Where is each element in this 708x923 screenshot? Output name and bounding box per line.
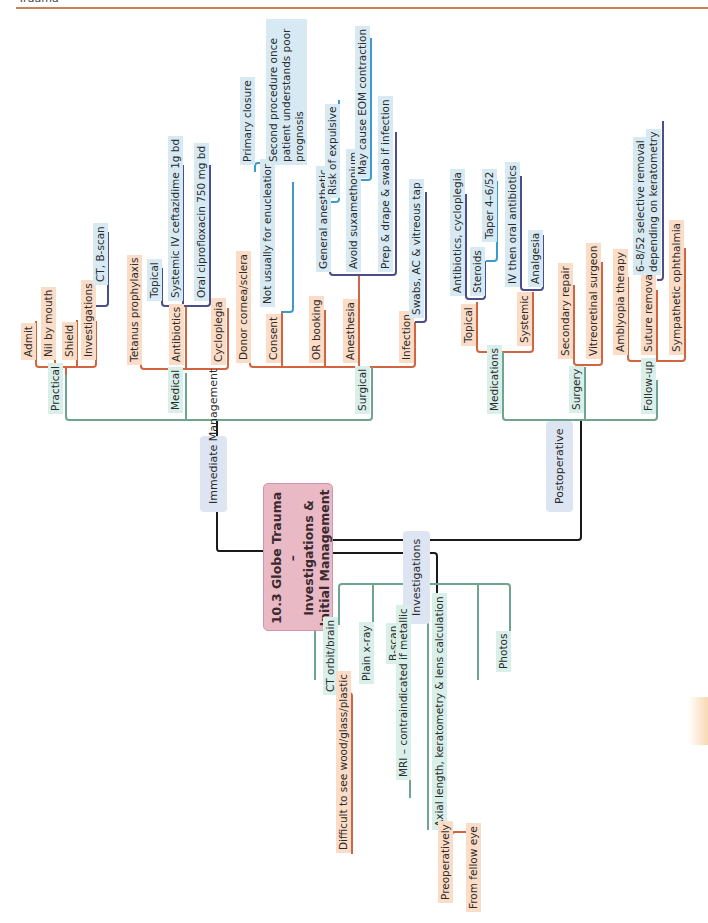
group-postoperative: Postoperative [546, 421, 573, 512]
node-donor-cornea: Donor cornea/sclera [236, 251, 251, 363]
node-swabs-ac-vitreous: Swabs, AC & vitreous tap [409, 179, 424, 318]
node-infection: Infection [399, 311, 414, 363]
node-preoperatively: Preoperatively [438, 821, 453, 903]
node-medical: Medical [168, 367, 183, 413]
node-second-procedure: Second procedure once patient understand… [266, 19, 307, 165]
node-follow-up: Follow-up [641, 358, 656, 414]
node-not-usually-enucleation: Not usually for enucleation [260, 159, 275, 307]
page-edge-tab [688, 697, 708, 745]
node-steroids: Steroids [470, 247, 485, 296]
node-secondary-repair: Secondary repair [558, 263, 573, 359]
node-cycloplegia: Cycloplegia [211, 298, 226, 365]
node-plain-xray: Plain x-ray [359, 622, 374, 684]
node-suture-detail-2: depending on keratometry [646, 129, 661, 275]
node-antibiotics: Antibiotics [169, 304, 184, 365]
node-vitreoretinal-surgeon: Vitreoretinal surgeon [586, 243, 601, 359]
node-photos: Photos [496, 631, 511, 672]
node-analgesia: Analgesia [528, 230, 543, 287]
node-shield: Shield [62, 322, 77, 360]
node-tetanus-prophylaxis: Tetanus prophylaxis [127, 255, 142, 365]
node-or-booking: OR booking [309, 296, 324, 363]
node-suture-removal: Suture removal [641, 268, 656, 355]
node-amblyopia-therapy: Amblyopia therapy [613, 249, 628, 355]
title-line: 10.3 Globe Trauma – [269, 489, 301, 627]
node-anesthesia: Anesthesia [343, 299, 358, 363]
node-may-cause-eom: May cause EOM contraction [355, 26, 370, 178]
node-axial-length: Axial length, keratometry & lens calcula… [432, 593, 447, 830]
group-immediate-management: Immediate Management [200, 436, 227, 512]
node-sympathetic-ophthalmia: Sympathetic ophthalmia [669, 220, 684, 355]
node-from-fellow-eye: From fellow eye [466, 823, 481, 912]
central-topic: 10.3 Globe Trauma – Investigations & Ini… [263, 483, 333, 631]
node-primary-closure: Primary closure [240, 77, 255, 165]
node-ct-bscan: CT, B-scan [93, 223, 108, 285]
node-systemic-ceftazidime: Systemic IV ceftazidime 1g bd [168, 136, 183, 301]
node-taper: Taper 4–6/52 [482, 169, 497, 242]
connector-lines [0, 0, 708, 923]
central-topic-text: 10.3 Globe Trauma – Investigations & Ini… [269, 489, 333, 627]
node-systemic-post: Systemic [517, 292, 532, 346]
node-prep-drape-swab: Prep & drape & swab if infection [378, 96, 393, 272]
node-oral-ciprofloxacin: Oral ciprofloxacin 750 mg bd [194, 143, 209, 301]
node-surgical: Surgical [355, 366, 370, 414]
node-admit: Admit [21, 323, 36, 360]
node-iv-then-oral: IV then oral antibiotics [505, 162, 520, 287]
node-mri: MRI – contraindicated if metallic [396, 605, 411, 780]
title-line: Investigations & [301, 489, 317, 627]
node-topical: Topical [147, 259, 162, 301]
node-medications: Medications [487, 345, 502, 414]
node-nil-by-mouth: Nil by mouth [41, 287, 56, 360]
node-risk-of-expulsive: Risk of expulsive [325, 104, 340, 198]
node-difficult-to-see: Difficult to see wood/glass/plastic [336, 671, 351, 853]
title-line: Initial Management [317, 489, 333, 627]
node-topical-post: Topical [461, 304, 476, 346]
node-surgery: Surgery [569, 366, 584, 413]
node-antibiotics-cycloplegia: Antibiotics, cycloplegia [450, 169, 465, 296]
node-practical: Practical [48, 363, 63, 414]
node-investigations: Investigations [81, 280, 96, 360]
node-consent: Consent [266, 314, 281, 363]
